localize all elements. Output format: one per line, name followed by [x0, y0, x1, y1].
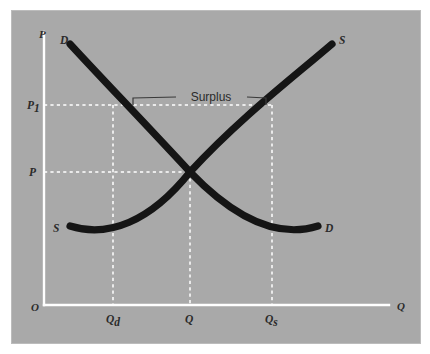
price-tick-p-base: P	[29, 166, 37, 178]
svg-text:Qd: Qd	[106, 313, 120, 328]
quantity-tick-qd-subscript: d	[114, 316, 120, 328]
curves	[70, 44, 332, 230]
quantity-tick-q-base: Q	[185, 313, 193, 325]
origin-label: O	[31, 301, 39, 313]
svg-text:P1: P1	[27, 99, 40, 114]
demand-curve	[70, 44, 318, 230]
price-tick-label-p1: P1	[27, 99, 40, 114]
quantity-tick-qs-base: Q	[265, 313, 273, 325]
quantity-tick-label-qs: Qs	[265, 313, 278, 328]
svg-text:Q: Q	[185, 313, 193, 325]
surplus-bracket-left	[133, 97, 176, 105]
quantity-tick-qs-subscript: s	[272, 316, 278, 328]
demand-curve-end-label: D	[324, 222, 334, 234]
supply-curve	[70, 44, 332, 230]
demand-curve-start-label: D	[59, 34, 69, 46]
supply-curve-start-label: S	[53, 222, 59, 234]
supply-demand-chart: P Q O P1 P Qd Q Qs	[0, 0, 430, 354]
quantity-tick-label-qd: Qd	[106, 313, 120, 328]
price-tick-label-p: P	[29, 166, 37, 178]
y-axis-label: P	[39, 28, 46, 40]
x-axis-label: Q	[397, 300, 405, 312]
svg-text:P: P	[29, 166, 37, 178]
surplus-label: Surplus	[191, 90, 232, 104]
quantity-tick-label-q: Q	[185, 313, 193, 325]
price-tick-p1-subscript: 1	[34, 102, 40, 114]
supply-curve-end-label: S	[339, 34, 345, 46]
quantity-tick-qd-base: Q	[106, 313, 114, 325]
svg-text:Qs: Qs	[265, 313, 278, 328]
figure-root: P Q O P1 P Qd Q Qs	[0, 0, 430, 354]
